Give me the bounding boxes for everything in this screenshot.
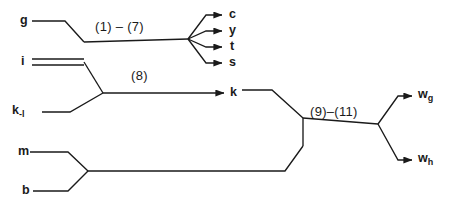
edge-v3-to-v4 (88, 146, 303, 171)
output-label-w-h: wh (418, 152, 433, 165)
edge-out-c (188, 15, 222, 39)
intermediate-label-k: k (230, 86, 237, 99)
edge-out-wh (378, 124, 412, 160)
edge-out-wg (378, 96, 412, 124)
input-label-i: i (21, 55, 24, 68)
edge-label-8: (8) (131, 69, 148, 82)
edge-out-s (188, 39, 222, 63)
input-label-b: b (22, 184, 30, 197)
output-label-w-g-subscript: g (428, 93, 434, 103)
output-label-y: y (229, 24, 236, 37)
output-label-c: c (229, 8, 236, 21)
input-label-k-subscript: -l (19, 109, 25, 119)
edge-i-to-v2 (84, 62, 103, 93)
edge-g-in (32, 21, 84, 42)
edge-1-7-propagator (84, 39, 188, 42)
output-label-w-h-base: w (418, 151, 428, 165)
edge-k-to-v4 (242, 90, 303, 118)
input-label-k-base: k (12, 103, 19, 117)
edge-label-1-7: (1) – (7) (95, 20, 144, 33)
input-label-m: m (18, 145, 29, 158)
edge-m-in (30, 152, 88, 171)
output-label-s: s (229, 56, 236, 69)
edge-label-9-11: (9)–(11) (310, 105, 358, 118)
output-label-w-g-base: w (418, 87, 428, 101)
output-label-w-h-subscript: h (428, 157, 434, 167)
input-label-k-minus-l: k-l (12, 104, 24, 117)
input-label-g: g (20, 14, 28, 27)
process-flow-diagram: g i k-l m b (1) – (7) (8) (9)–(11) k c y… (0, 0, 459, 206)
edge-b-in (33, 171, 88, 191)
output-label-t: t (230, 40, 234, 53)
edge-kl-in (42, 93, 103, 112)
output-label-w-g: wg (418, 88, 433, 101)
